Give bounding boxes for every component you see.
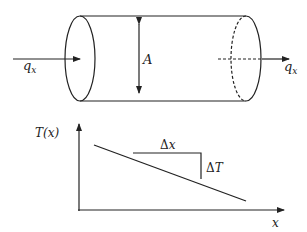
flux-out-label: qx bbox=[284, 59, 297, 76]
x-axis-label: x bbox=[272, 216, 279, 230]
heat-conduction-diagram: A qx qx T(x) x Δx ΔT bbox=[0, 0, 307, 232]
delta-x-label: Δx bbox=[160, 138, 176, 152]
y-axis-label: T(x) bbox=[35, 126, 59, 140]
cylinder bbox=[65, 16, 261, 101]
delta-t-label: ΔT bbox=[206, 161, 224, 175]
flux-in-label: qx bbox=[23, 58, 36, 75]
slope-bracket bbox=[133, 153, 201, 179]
area-label: A bbox=[142, 52, 152, 67]
